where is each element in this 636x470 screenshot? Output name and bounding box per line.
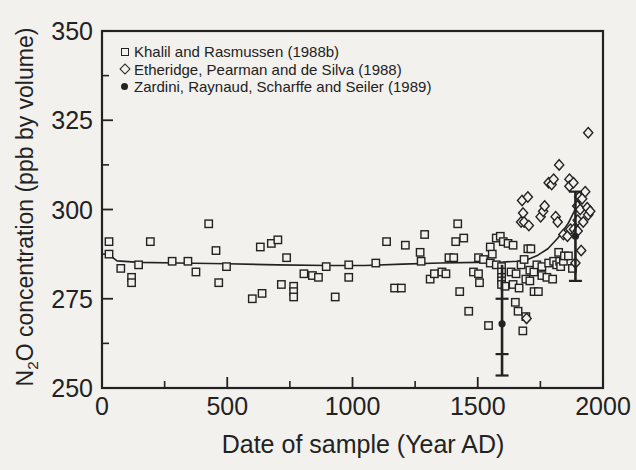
khalil-data-point <box>527 245 534 252</box>
khalil-data-point <box>274 236 281 243</box>
khalil-data-point <box>450 254 457 261</box>
khalil-data-point <box>565 252 572 259</box>
khalil-data-point <box>456 288 463 295</box>
legend-label-zardini: Zardini, Raynaud, Scharffe and Seiler (1… <box>134 79 431 94</box>
khalil-data-point <box>332 293 339 300</box>
x-tick-label: 2000 <box>575 392 631 420</box>
open-square-icon <box>121 48 134 56</box>
khalil-data-point <box>417 258 424 265</box>
khalil-data-point <box>300 270 307 277</box>
khalil-data-point <box>117 265 124 272</box>
etheridge-data-point <box>577 245 586 255</box>
khalil-data-point <box>519 327 526 334</box>
khalil-data-point <box>402 242 409 249</box>
khalil-data-point <box>249 295 256 302</box>
khalil-data-point <box>520 256 527 263</box>
khalil-data-point <box>223 263 230 270</box>
khalil-data-point <box>465 308 472 315</box>
khalil-data-point <box>460 234 467 241</box>
khalil-data-point <box>278 281 285 288</box>
khalil-data-point <box>487 243 494 250</box>
khalil-data-point <box>476 279 483 286</box>
khalil-data-point <box>515 284 522 291</box>
khalil-data-point <box>105 250 112 257</box>
khalil-data-point <box>509 242 516 249</box>
khalil-data-point <box>322 263 329 270</box>
legend-label-khalil: Khalil and Rasmussen (1988b) <box>134 44 339 59</box>
khalil-data-point <box>128 279 135 286</box>
fit-line <box>108 193 581 265</box>
legend-label-etheridge: Etheridge, Pearman and de Silva (1988) <box>134 62 402 77</box>
khalil-data-point <box>514 308 521 315</box>
y-axis-title-pre: N <box>12 370 38 387</box>
legend-item-khalil: Khalil and Rasmussen (1988b) <box>121 44 431 60</box>
khalil-data-point <box>431 270 438 277</box>
khalil-data-point <box>549 275 556 282</box>
khalil-data-point <box>530 268 537 275</box>
n2o-concentration-figure: 0500100015002000250275300325350 N2O conc… <box>0 0 636 470</box>
khalil-data-point <box>258 290 265 297</box>
x-tick-label: 1000 <box>325 392 381 420</box>
zardini-data-point <box>572 233 579 240</box>
khalil-data-point <box>526 277 533 284</box>
khalil-data-point <box>290 293 297 300</box>
khalil-data-point <box>257 243 264 250</box>
x-tick-label: 1500 <box>450 392 506 420</box>
khalil-data-point <box>512 270 519 277</box>
khalil-data-point <box>398 284 405 291</box>
y-tick-label: 325 <box>51 106 93 134</box>
khalil-data-point <box>205 220 212 227</box>
khalil-data-point <box>135 261 142 268</box>
etheridge-data-point <box>584 128 593 138</box>
legend: Khalil and Rasmussen (1988b) Etheridge, … <box>121 44 431 95</box>
y-tick-label: 350 <box>51 17 93 45</box>
y-axis-title: N2O concentration (ppb by volume) <box>14 28 40 387</box>
x-tick-label: 0 <box>95 392 109 420</box>
khalil-data-point <box>485 322 492 329</box>
y-axis-title-subscript: 2 <box>24 361 41 369</box>
khalil-data-point <box>442 270 449 277</box>
khalil-data-point <box>212 247 219 254</box>
khalil-data-point <box>315 274 322 281</box>
y-tick-label: 300 <box>51 196 93 224</box>
y-axis-title-post: O concentration (ppb by volume) <box>12 28 38 362</box>
khalil-data-point <box>489 250 496 257</box>
open-diamond-icon <box>121 65 134 73</box>
khalil-data-point <box>147 238 154 245</box>
y-tick-label: 275 <box>51 285 93 313</box>
etheridge-data-point <box>555 160 564 170</box>
x-axis-title: Date of sample (Year AD) <box>113 431 613 459</box>
khalil-data-point <box>452 238 459 245</box>
khalil-data-point <box>283 254 290 261</box>
khalil-data-point <box>215 279 222 286</box>
khalil-data-point <box>105 238 112 245</box>
x-tick-label: 500 <box>206 392 248 420</box>
filled-circle-icon <box>121 83 134 90</box>
khalil-data-point <box>168 258 175 265</box>
khalil-data-point <box>345 261 352 268</box>
khalil-data-point <box>454 220 461 227</box>
legend-item-zardini: Zardini, Raynaud, Scharffe and Seiler (1… <box>121 79 431 95</box>
khalil-data-point <box>345 274 352 281</box>
khalil-data-point <box>535 288 542 295</box>
etheridge-data-point <box>518 208 527 218</box>
zardini-data-point <box>498 320 505 327</box>
khalil-data-point <box>416 249 423 256</box>
khalil-data-point <box>475 270 482 277</box>
khalil-data-point <box>184 258 191 265</box>
khalil-data-point <box>192 268 199 275</box>
khalil-data-point <box>383 238 390 245</box>
khalil-data-point <box>372 259 379 266</box>
legend-item-etheridge: Etheridge, Pearman and de Silva (1988) <box>121 62 431 78</box>
y-tick-label: 250 <box>51 374 93 402</box>
khalil-data-point <box>421 231 428 238</box>
khalil-data-point <box>512 299 519 306</box>
